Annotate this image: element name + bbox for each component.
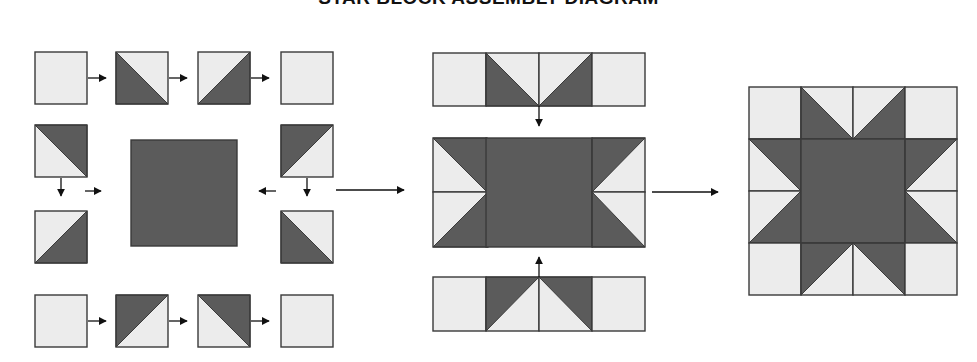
quilt-unit-f-4: [905, 87, 957, 139]
quilt-unit-top-3: [198, 52, 250, 104]
quilt-unit-f-9: [749, 243, 801, 295]
quilt-unit-m-l1: [433, 138, 487, 192]
quilt-unit-f-8: [905, 191, 957, 243]
quilt-unit-m-l2: [433, 192, 488, 247]
quilt-unit-f-2: [801, 87, 853, 139]
quilt-unit-r3-2: [486, 277, 539, 331]
quilt-unit-m-c: [486, 138, 592, 247]
step-2-rows-group: [433, 53, 645, 331]
quilt-unit-top-1: [35, 52, 87, 104]
quilt-unit-r3-1: [433, 277, 486, 331]
quilt-unit-r1-3: [539, 53, 592, 106]
quilt-unit-m-r1: [592, 138, 645, 192]
star-block-assembly-diagram: [0, 0, 977, 362]
quilt-unit-f-5: [749, 139, 801, 191]
quilt-unit-left-1: [35, 125, 87, 177]
quilt-unit-r1-2: [486, 53, 539, 106]
quilt-unit-f-1: [749, 87, 801, 139]
step-3-finished-block-group: [749, 87, 957, 295]
quilt-unit-bottom-1: [35, 295, 87, 347]
quilt-unit-bottom-2: [116, 295, 168, 347]
quilt-unit-f-11: [853, 243, 905, 295]
quilt-unit-bottom-4: [281, 295, 333, 347]
quilt-unit-top-4: [281, 52, 333, 104]
quilt-unit-top-2: [116, 52, 168, 104]
quilt-unit-center: [131, 140, 237, 246]
quilt-unit-r1-4: [592, 53, 645, 106]
quilt-unit-right-2: [281, 211, 333, 263]
quilt-unit-f-10: [801, 243, 853, 295]
quilt-unit-right-1: [281, 125, 333, 177]
quilt-unit-f-7: [905, 139, 957, 191]
quilt-unit-m-r2: [592, 192, 645, 247]
quilt-unit-f-c: [801, 139, 905, 243]
quilt-unit-left-2: [35, 211, 87, 263]
quilt-unit-r1-1: [433, 53, 486, 106]
quilt-unit-f-6: [749, 191, 801, 243]
step-1-units-group: [35, 52, 333, 347]
quilt-unit-r3-4: [592, 277, 645, 331]
quilt-unit-r3-3: [539, 277, 592, 331]
quilt-unit-bottom-3: [198, 295, 250, 347]
quilt-unit-f-3: [853, 87, 905, 139]
quilt-unit-f-12: [905, 243, 957, 295]
